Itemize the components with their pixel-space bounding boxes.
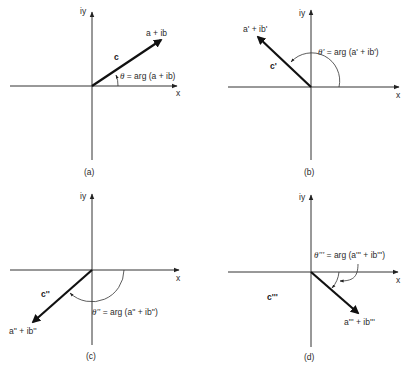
argument-diagram: iy x a + ib c θ = arg (a + ib) (a) iy x … xyxy=(0,0,413,372)
vector-label: c''' xyxy=(267,292,278,302)
angle-arc-small xyxy=(332,272,339,288)
x-axis-label: x xyxy=(396,90,401,100)
angle-arc xyxy=(291,53,340,87)
y-axis-label: iy xyxy=(299,192,306,202)
panel-c: iy x c'' a'' + ib'' θ'' = arg (a'' + ib'… xyxy=(9,191,181,361)
angle-label: θ'' = arg (a'' + ib'') xyxy=(92,307,158,317)
point-label: a'' + ib'' xyxy=(9,326,37,336)
vector-c-prime xyxy=(258,37,311,87)
point-label: a''' + ib''' xyxy=(344,317,375,327)
angle-label: θ''' = arg (a''' + ib''') xyxy=(314,250,385,260)
panel-caption: (a) xyxy=(84,167,95,177)
panel-b: iy x a' + ib' c' θ' = arg (a' + ib') (b) xyxy=(228,8,401,177)
y-axis-label: iy xyxy=(299,8,306,18)
point-label: a + ib xyxy=(146,28,167,38)
panel-a: iy x a + ib c θ = arg (a + ib) (a) xyxy=(10,6,181,177)
y-axis-label: iy xyxy=(80,191,87,201)
panel-caption: (d) xyxy=(304,352,315,362)
x-axis-label: x xyxy=(176,88,181,98)
point-label: a' + ib' xyxy=(243,24,268,34)
x-axis-label: x xyxy=(176,273,181,283)
angle-arc xyxy=(116,75,118,86)
angle-label: θ' = arg (a' + ib') xyxy=(318,47,379,57)
panel-caption: (b) xyxy=(304,167,315,177)
panel-d: iy x θ''' = arg (a''' + ib''') c''' a'''… xyxy=(228,192,401,362)
vector-label: c'' xyxy=(41,289,50,299)
y-axis-label: iy xyxy=(80,6,87,16)
vector-label: c' xyxy=(270,61,277,71)
angle-arc xyxy=(70,270,124,302)
vector-label: c xyxy=(114,52,119,62)
angle-label: θ = arg (a + ib) xyxy=(120,71,176,81)
vector-c-triple-prime xyxy=(311,272,358,313)
panel-caption: (c) xyxy=(86,351,96,361)
x-axis-label: x xyxy=(396,275,401,285)
